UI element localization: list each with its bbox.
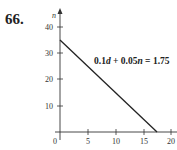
x-tick-label-10: 10 [112,137,120,146]
eq-part: + 0.05 [111,56,138,66]
y-tick-label-10: 10 [45,102,53,111]
equation-annotation: 0.1d + 0.05n = 1.75 [94,56,170,66]
x-tick-label-15: 15 [140,137,148,146]
x-tick-label-20: 20 [167,137,175,146]
y-tick-label-20: 20 [45,75,53,84]
y-axis-arrow-icon [58,8,63,14]
y-axis-label: n [52,11,56,20]
eq-part: 0.1 [94,56,106,66]
eq-part: = 1.75 [143,56,170,66]
line-chart: n 40 30 20 10 0 5 10 15 20 [0,0,177,150]
y-tick-label-30: 30 [45,49,53,58]
y-tick-label-40: 40 [45,23,53,32]
x-tick-label-5: 5 [86,137,90,146]
constraint-line [60,40,157,132]
x-tick-label-0: 0 [53,137,57,146]
